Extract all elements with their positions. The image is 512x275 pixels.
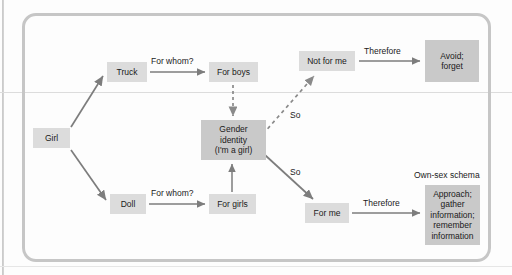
edge-label-for-whom-top: For whom? [151, 56, 194, 66]
node-approach-line2: gather [440, 199, 464, 210]
node-for-girls[interactable]: For girls [209, 194, 256, 214]
node-truck-label: Truck [117, 67, 138, 78]
node-approach-line4: remember [433, 220, 472, 231]
node-gender-identity-line3: (I'm a girl) [215, 145, 253, 156]
node-for-boys[interactable]: For boys [209, 62, 258, 82]
node-approach-line3: information; [430, 210, 474, 221]
node-gender-identity-line1: Gender [219, 124, 247, 135]
edge-label-so-top: So [290, 110, 300, 120]
node-doll[interactable]: Doll [110, 194, 146, 214]
node-girl-label: Girl [45, 133, 58, 144]
edge-label-for-whom-bottom: For whom? [151, 188, 194, 198]
arrow-girl-to-doll [71, 150, 106, 200]
node-truck[interactable]: Truck [107, 62, 147, 82]
diagram-screenshot: Girl Truck For boys Not for me Avoid; fo… [0, 0, 512, 275]
node-approach-line1: Approach; [433, 189, 472, 200]
node-not-for-me[interactable]: Not for me [299, 51, 355, 71]
edge-label-therefore-bottom: Therefore [363, 198, 400, 208]
node-for-boys-label: For boys [217, 67, 250, 78]
node-girl[interactable]: Girl [33, 128, 70, 148]
edge-label-so-bottom: So [290, 167, 300, 177]
node-for-me[interactable]: For me [305, 203, 349, 223]
node-gender-identity-line2: identity [220, 135, 247, 146]
arrow-gender-identity-to-not-for-me [263, 76, 314, 134]
node-not-for-me-label: Not for me [307, 56, 347, 67]
own-sex-schema-label: Own-sex schema [414, 170, 480, 180]
node-gender-identity[interactable]: Gender identity (I'm a girl) [201, 120, 266, 160]
arrow-gender-identity-to-for-me [265, 155, 313, 199]
node-avoid-forget[interactable]: Avoid; forget [425, 40, 479, 82]
node-approach-line5: information [431, 231, 473, 242]
edge-label-therefore-top: Therefore [364, 46, 401, 56]
node-for-me-label: For me [314, 208, 341, 219]
node-avoid-forget-line2: forget [441, 61, 463, 72]
arrow-girl-to-truck [71, 76, 103, 127]
node-for-girls-label: For girls [217, 199, 248, 210]
node-avoid-forget-line1: Avoid; [440, 51, 463, 62]
node-doll-label: Doll [121, 199, 136, 210]
node-approach-gather[interactable]: Approach; gather information; remember i… [425, 185, 480, 245]
